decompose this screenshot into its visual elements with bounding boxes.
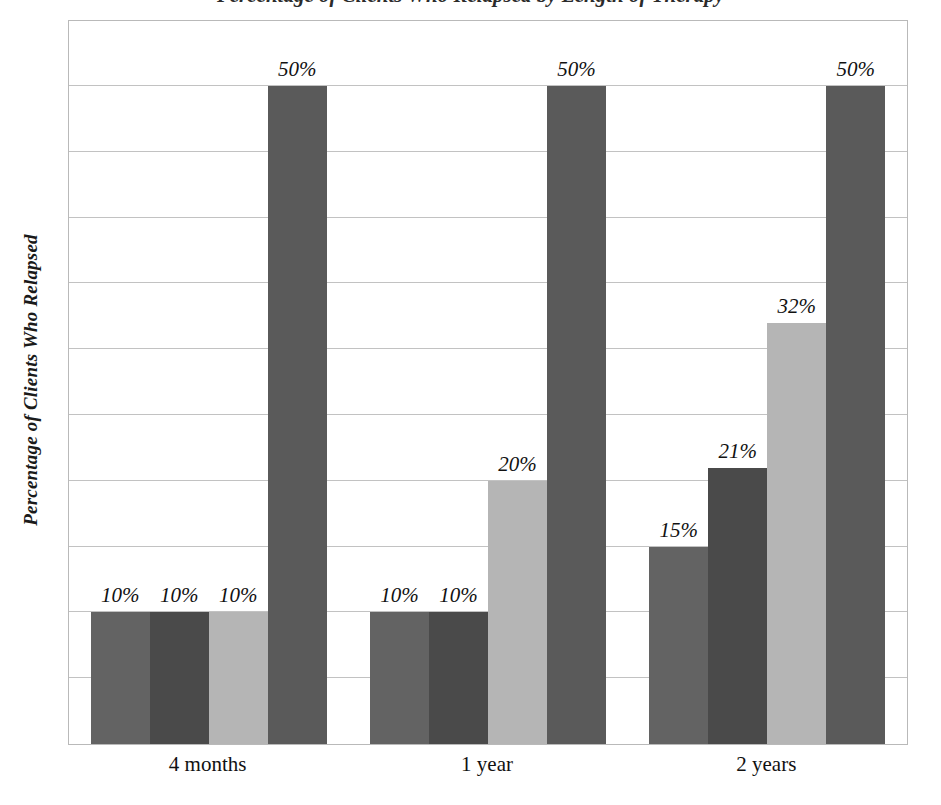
chart-title: Percentage of Clients Who Relapsed by Le… xyxy=(0,0,941,14)
bar[interactable]: 32% xyxy=(767,323,826,744)
bar[interactable]: 21% xyxy=(708,468,767,744)
bar-value-label: 10% xyxy=(219,583,258,608)
x-axis-label: 1 year xyxy=(461,752,513,777)
bar-value-label: 32% xyxy=(778,294,817,319)
bar[interactable]: 10% xyxy=(209,612,268,744)
bar-value-label: 50% xyxy=(837,57,876,82)
bar[interactable]: 10% xyxy=(150,612,209,744)
bar-value-label: 10% xyxy=(160,583,199,608)
bar-value-label: 10% xyxy=(439,583,478,608)
bar-value-label: 15% xyxy=(660,518,699,543)
x-axis-label: 4 months xyxy=(169,752,247,777)
bar[interactable]: 10% xyxy=(91,612,150,744)
x-axis-label: 2 years xyxy=(736,752,796,777)
x-axis-labels: 4 months1 year2 years xyxy=(68,752,908,792)
bar[interactable]: 15% xyxy=(649,547,708,744)
bar-value-label: 21% xyxy=(719,439,758,464)
bar-value-label: 50% xyxy=(557,57,596,82)
plot-area: 10%10%10%50%10%10%20%50%15%21%32%50% xyxy=(68,20,908,745)
y-axis-title-text: Percentage of Clients Who Relapsed xyxy=(20,234,42,525)
bar[interactable]: 10% xyxy=(429,612,488,744)
bar-value-label: 10% xyxy=(101,583,140,608)
y-axis-title: Percentage of Clients Who Relapsed xyxy=(0,0,62,760)
bar-value-label: 20% xyxy=(498,452,537,477)
bar-value-label: 10% xyxy=(380,583,419,608)
bars-layer: 10%10%10%50%10%10%20%50%15%21%32%50% xyxy=(69,21,907,744)
bar[interactable]: 50% xyxy=(547,86,606,744)
bar[interactable]: 20% xyxy=(488,481,547,744)
bar[interactable]: 50% xyxy=(826,86,885,744)
chart-title-text: Percentage of Clients Who Relapsed by Le… xyxy=(0,0,941,8)
bar[interactable]: 10% xyxy=(370,612,429,744)
bar[interactable]: 50% xyxy=(268,86,327,744)
bar-value-label: 50% xyxy=(278,57,317,82)
